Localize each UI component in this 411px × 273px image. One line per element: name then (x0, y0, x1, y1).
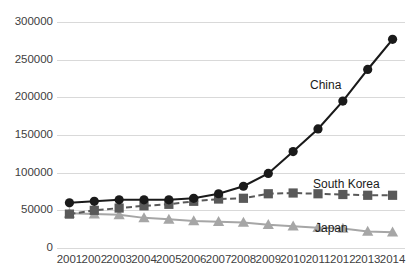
x-axis-tick-label: 2009 (255, 254, 281, 266)
data-point-marker (313, 124, 322, 133)
data-point-marker (164, 195, 173, 204)
series-label-japan: Japan (315, 222, 348, 234)
data-point-marker (264, 169, 273, 178)
x-axis-tick-label: 2014 (380, 254, 406, 266)
x-axis-tick-label: 2010 (280, 254, 306, 266)
x-axis-tick-label: 2012 (330, 254, 356, 266)
data-point-marker (388, 191, 397, 200)
data-point-marker (239, 182, 248, 191)
series-japan (64, 208, 398, 237)
data-point-marker (239, 194, 248, 203)
x-axis-tick-label: 2008 (231, 254, 257, 266)
data-point-marker (338, 190, 347, 199)
data-point-marker (214, 189, 223, 198)
data-point-marker (289, 188, 298, 197)
series-layer (0, 0, 411, 273)
data-point-marker (189, 194, 198, 203)
x-axis-tick-label: 2006 (181, 254, 207, 266)
data-point-marker (139, 195, 148, 204)
x-axis-tick-label: 2003 (106, 254, 132, 266)
data-point-marker (363, 191, 372, 200)
x-axis-tick-label: 2001 (57, 254, 83, 266)
x-axis-tick-label: 2013 (355, 254, 381, 266)
data-point-marker (363, 65, 372, 74)
data-point-marker (264, 189, 273, 198)
data-point-marker (65, 198, 74, 207)
line-chart: 050000100000150000200000250000300000 200… (0, 0, 411, 273)
data-point-marker (65, 210, 74, 219)
x-axis-tick-label: 2007 (206, 254, 232, 266)
data-point-marker (289, 147, 298, 156)
x-axis-tick-label: 2004 (131, 254, 157, 266)
series-label-south-korea: South Korea (313, 178, 380, 190)
series-label-china: China (310, 79, 341, 91)
data-point-marker (115, 203, 124, 212)
x-axis-tick-label: 2011 (306, 254, 331, 266)
data-point-marker (90, 197, 99, 206)
data-point-marker (115, 195, 124, 204)
data-point-marker (90, 206, 99, 215)
x-axis-tick-label: 2002 (81, 254, 107, 266)
data-point-marker (388, 35, 397, 44)
x-axis-tick-label: 2005 (156, 254, 182, 266)
data-point-marker (338, 97, 347, 106)
